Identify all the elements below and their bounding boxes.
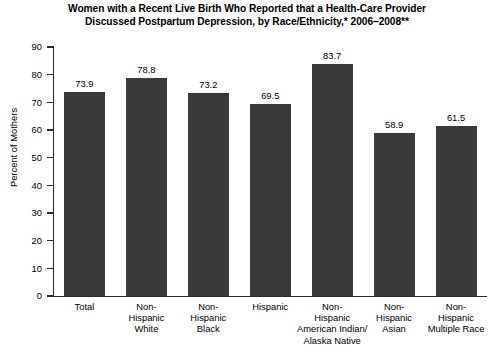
x-axis-label-line: Alaska Native [284, 335, 380, 346]
bar[interactable] [250, 104, 291, 296]
x-axis-label-line: Multiple Race [408, 323, 494, 334]
bar[interactable] [188, 93, 229, 296]
bar-value-label: 61.5 [426, 113, 486, 123]
x-axis-label-line: Black [160, 323, 256, 334]
bar-value-label: 83.7 [302, 51, 362, 61]
bar-value-label: 78.8 [116, 65, 176, 75]
bar[interactable] [64, 92, 105, 296]
bar-chart: Women with a Recent Live Birth Who Repor… [0, 0, 494, 353]
bar[interactable] [374, 133, 415, 296]
x-axis-label-line: Hispanic [160, 312, 256, 323]
x-axis-label-line: Hispanic [408, 312, 494, 323]
bar-value-label: 58.9 [364, 120, 424, 130]
x-axis-label-line: Non- [408, 301, 494, 312]
x-axis-label: Non-HispanicMultiple Race [408, 301, 494, 335]
bar-value-label: 69.5 [240, 91, 300, 101]
bar[interactable] [436, 126, 477, 296]
bar-value-label: 73.2 [178, 80, 238, 90]
bar[interactable] [312, 64, 353, 296]
bar-value-label: 73.9 [54, 79, 114, 89]
bar[interactable] [126, 78, 167, 296]
